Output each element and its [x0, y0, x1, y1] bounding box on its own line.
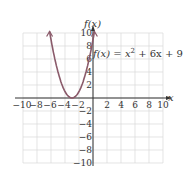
- svg-text:2: 2: [104, 100, 110, 110]
- svg-text:−8: −8: [79, 145, 93, 155]
- y-axis-label: f(x): [83, 18, 101, 29]
- svg-text:10: 10: [81, 28, 93, 38]
- svg-text:−6: −6: [43, 100, 57, 110]
- svg-text:−10: −10: [73, 158, 92, 168]
- parabola-chart: −10−8−6−4−2246810−10−8−6−4−2246810 f(x) …: [0, 0, 189, 182]
- svg-text:6: 6: [132, 100, 138, 110]
- svg-text:−2: −2: [79, 106, 92, 116]
- svg-text:−4: −4: [57, 100, 71, 110]
- x-axis-label: x: [168, 92, 174, 103]
- svg-text:4: 4: [118, 100, 124, 110]
- svg-text:−4: −4: [79, 119, 93, 129]
- svg-text:8: 8: [146, 100, 152, 110]
- svg-text:−8: −8: [29, 100, 43, 110]
- svg-text:2: 2: [86, 80, 92, 90]
- svg-text:−6: −6: [79, 132, 93, 142]
- function-equation: f(x) = x2 + 6x + 9: [92, 47, 183, 59]
